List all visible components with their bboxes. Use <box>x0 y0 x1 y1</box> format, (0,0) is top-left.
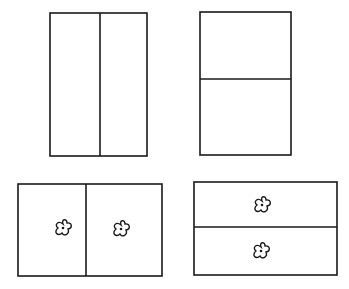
panel-top-right <box>200 12 291 155</box>
diagram-canvas <box>0 0 349 289</box>
panel-frame <box>50 13 147 156</box>
panel-bottom-left <box>18 184 162 276</box>
panel-frame <box>200 12 291 155</box>
clover-icon <box>254 243 269 258</box>
panel-top-left <box>50 13 147 156</box>
clover-icon <box>255 197 270 212</box>
panel-frame <box>194 182 337 275</box>
panel-bottom-right <box>194 182 337 275</box>
clover-icon <box>56 220 71 235</box>
panel-frame <box>18 184 162 276</box>
clover-icon <box>114 221 129 236</box>
